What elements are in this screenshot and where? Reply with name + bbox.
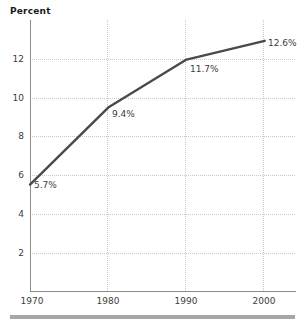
y-tick-labels: 12 10 8 6 4 2 xyxy=(0,0,24,327)
gridline-y-12 xyxy=(30,59,295,60)
x-axis-line xyxy=(30,291,296,292)
gridline-y-10 xyxy=(30,98,295,99)
y-tick-2: 2 xyxy=(18,248,24,258)
line-chart: Percent 12 10 8 6 4 2 1970 1980 1990 200… xyxy=(0,0,304,327)
gridline-x-2000 xyxy=(263,20,264,291)
y-tick-12: 12 xyxy=(13,54,24,64)
x-tick-1980: 1980 xyxy=(97,296,120,306)
x-tick-2000: 2000 xyxy=(253,296,276,306)
y-tick-10: 10 xyxy=(13,93,24,103)
gridline-y-6 xyxy=(30,175,295,176)
plot-area xyxy=(30,20,295,291)
gridline-y-2 xyxy=(30,253,295,254)
gridline-y-8 xyxy=(30,136,295,137)
gridline-x-1990 xyxy=(185,20,186,291)
x-tick-1990: 1990 xyxy=(175,296,198,306)
y-tick-8: 8 xyxy=(18,131,24,141)
gridline-x-1980 xyxy=(107,20,108,291)
point-label-2000: 12.6% xyxy=(268,38,297,48)
y-tick-6: 6 xyxy=(18,170,24,180)
bottom-rule xyxy=(10,315,295,319)
point-label-1990: 11.7% xyxy=(190,64,219,74)
y-tick-4: 4 xyxy=(18,209,24,219)
gridline-y-4 xyxy=(30,214,295,215)
y-axis-line xyxy=(30,20,31,292)
point-label-1970: 5.7% xyxy=(34,180,57,190)
point-label-1980: 9.4% xyxy=(112,109,135,119)
x-tick-1970: 1970 xyxy=(21,296,44,306)
